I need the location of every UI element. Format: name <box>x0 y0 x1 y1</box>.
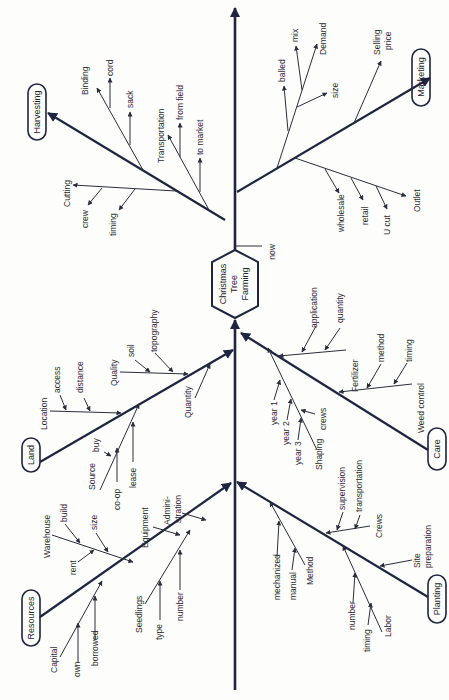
category-resources: Resources Warehouse build size rent Equi… <box>22 483 231 677</box>
selling-label-1: Selling <box>372 29 382 55</box>
svg-text:year 1: year 1 <box>269 401 279 425</box>
svg-text:Outlet: Outlet <box>412 189 422 212</box>
category-care: Care Fertilizer application quantity Wee… <box>241 287 446 470</box>
svg-text:crew: crew <box>80 209 90 228</box>
svg-text:Warehouse: Warehouse <box>42 515 52 558</box>
svg-text:Location: Location <box>39 398 49 430</box>
svg-text:U cut: U cut <box>382 215 392 235</box>
head-line-2: Tree <box>229 275 239 293</box>
svg-text:from field: from field <box>175 85 185 120</box>
selling-label-2: price <box>383 31 393 50</box>
marketing-label: Marketing <box>416 57 426 97</box>
svg-text:soil: soil <box>126 344 136 357</box>
head-line-3: Farming <box>240 267 250 300</box>
svg-text:timing: timing <box>108 213 118 236</box>
svg-text:size: size <box>89 515 99 530</box>
site-label-2: preparation <box>423 525 433 568</box>
svg-text:year 3: year 3 <box>293 441 303 465</box>
svg-text:cord: cord <box>105 59 115 76</box>
svg-text:Seedlings: Seedlings <box>134 596 144 633</box>
svg-text:application: application <box>309 287 319 328</box>
svg-text:co-op: co-op <box>112 488 122 510</box>
svg-text:timing: timing <box>362 629 372 652</box>
svg-text:access: access <box>52 367 62 393</box>
svg-text:Quality: Quality <box>109 359 119 386</box>
svg-text:transportation: transportation <box>354 460 364 512</box>
svg-text:Quantity: Quantity <box>183 386 193 418</box>
svg-text:lease: lease <box>128 467 138 488</box>
svg-text:Method: Method <box>305 556 315 585</box>
site-label-1: Site <box>412 553 422 568</box>
harvesting-label: Harvesting <box>32 90 42 133</box>
svg-text:Equipment: Equipment <box>140 507 150 548</box>
svg-text:supervision: supervision <box>337 467 347 510</box>
category-marketing: Marketing Demand balled mix size Selling… <box>237 23 430 235</box>
svg-text:retail: retail <box>360 206 370 225</box>
svg-text:topography: topography <box>149 309 159 352</box>
svg-text:borrowed: borrowed <box>90 630 100 666</box>
svg-text:Demand: Demand <box>318 23 328 55</box>
svg-text:sack: sack <box>125 90 135 108</box>
admin-label-2: stration <box>173 495 183 523</box>
head-line-1: Christmas <box>218 263 228 304</box>
svg-text:Capital: Capital <box>49 646 59 673</box>
resources-label: Resources <box>26 596 36 640</box>
svg-text:type: type <box>154 624 164 640</box>
svg-text:mix: mix <box>290 28 300 42</box>
land-label: Land <box>26 445 36 465</box>
svg-text:number: number <box>175 592 185 621</box>
fishbone-diagram: Christmas Tree Farming now Harvesting Bi… <box>0 0 449 700</box>
svg-text:wholesale: wholesale <box>336 194 346 233</box>
care-label: Care <box>432 439 442 459</box>
category-planting: Planting Crews supervision transportatio… <box>237 460 446 652</box>
svg-text:Shaping: Shaping <box>314 439 324 470</box>
svg-text:method: method <box>376 333 386 362</box>
svg-text:own: own <box>72 661 82 677</box>
svg-text:quantity: quantity <box>335 292 345 323</box>
svg-text:buy: buy <box>91 438 101 452</box>
svg-text:Fertilizer: Fertilizer <box>350 359 360 392</box>
svg-text:Source: Source <box>87 463 97 490</box>
planting-label: Planting <box>432 583 442 616</box>
svg-text:Cutting: Cutting <box>62 180 72 207</box>
head-problem: Christmas Tree Farming now <box>212 243 277 318</box>
svg-text:rent: rent <box>68 560 78 575</box>
svg-text:Transportation: Transportation <box>156 108 166 163</box>
svg-text:to market: to market <box>195 119 205 155</box>
svg-text:distance: distance <box>75 361 85 393</box>
svg-text:build: build <box>59 504 69 522</box>
svg-text:number: number <box>347 601 357 630</box>
svg-text:Binding: Binding <box>80 66 90 95</box>
svg-text:year 2: year 2 <box>281 421 291 445</box>
category-land: Land Location access distance Quality so… <box>22 309 233 510</box>
now-label: now <box>267 243 277 259</box>
svg-text:size: size <box>330 83 340 98</box>
admin-label-1: Admini- <box>162 496 172 525</box>
svg-text:mechanized: mechanized <box>272 554 282 600</box>
svg-text:Weed control: Weed control <box>416 383 426 433</box>
svg-text:Crews: Crews <box>374 514 384 538</box>
svg-text:timing: timing <box>404 339 414 362</box>
svg-text:Labor: Labor <box>383 615 393 637</box>
svg-text:manual: manual <box>288 572 298 600</box>
category-harvesting: Harvesting Binding cord sack Transportat… <box>28 59 225 236</box>
svg-text:balled: balled <box>277 59 287 82</box>
svg-text:crews: crews <box>318 408 328 430</box>
